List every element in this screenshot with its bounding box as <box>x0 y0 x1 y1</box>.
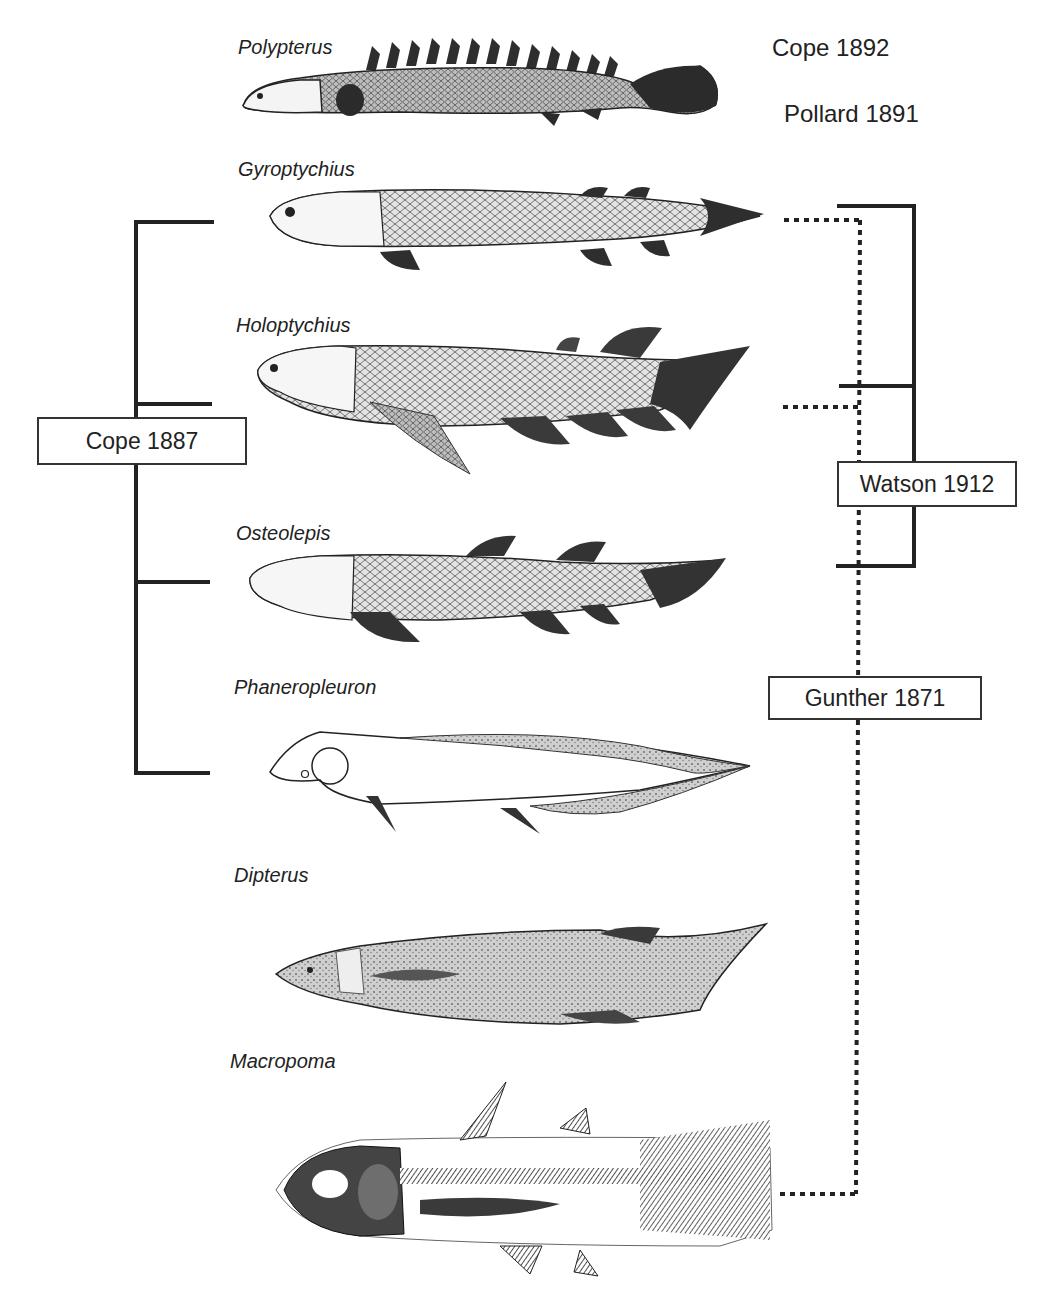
fish-holoptychius <box>258 327 750 474</box>
fish-illustrations <box>0 0 1050 1302</box>
fish-phaneropleuron <box>270 732 750 834</box>
fish-gyroptychius <box>270 187 764 270</box>
fish-polypterus <box>243 38 718 126</box>
fish-dipterus <box>276 924 766 1024</box>
fish-macropoma <box>276 1082 772 1276</box>
fish-osteolepis <box>250 536 726 642</box>
